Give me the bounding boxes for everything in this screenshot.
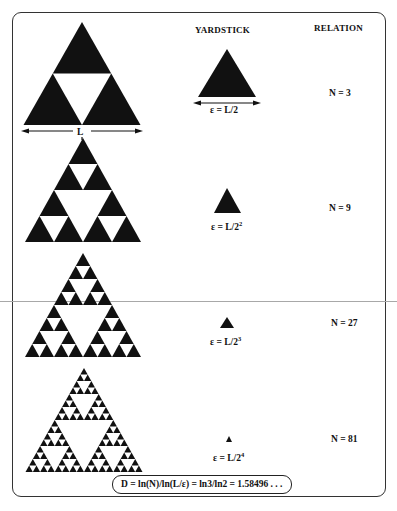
yardstick-label-2: ε = L/22	[211, 222, 242, 232]
yardstick-label-text: ε = L/2	[210, 105, 238, 115]
length-label: L	[77, 127, 83, 137]
yardstick-label-text: ε = L/2	[210, 337, 238, 347]
sierpinski-level-3	[25, 253, 141, 357]
yardstick-label-text: ε = L/2	[213, 453, 241, 463]
yardstick-triangle-1	[198, 49, 256, 97]
header-yardstick: YARDSTICK	[195, 25, 250, 35]
relation-1: N = 3	[329, 88, 351, 98]
header-relation: RELATION	[314, 23, 363, 33]
yardstick-label-3: ε = L/23	[210, 337, 241, 347]
yardstick-triangle-4	[226, 436, 232, 442]
yardstick-triangle-2	[214, 188, 241, 213]
yardstick-exponent: 4	[241, 451, 244, 458]
yardstick-exponent: 2	[239, 220, 242, 227]
yardstick-triangle-3	[220, 317, 234, 328]
yardstick-label-4: ε = L/24	[213, 453, 244, 463]
relation-2: N = 9	[329, 203, 351, 213]
yardstick-label-text: ε = L/2	[211, 222, 239, 232]
relation-3: N = 27	[331, 318, 358, 328]
relation-4: N = 81	[331, 434, 358, 444]
sierpinski-level-4	[26, 368, 143, 472]
sierpinski-level-2	[25, 138, 141, 242]
yardstick-label-1: ε = L/2	[210, 105, 238, 115]
yardstick-exponent: 3	[238, 335, 241, 342]
sierpinski-level-1	[24, 22, 141, 125]
fractal-dimension-formula: D = ln(N)/ln(L/ε) = ln3/ln2 = 1.58496 . …	[112, 475, 292, 494]
